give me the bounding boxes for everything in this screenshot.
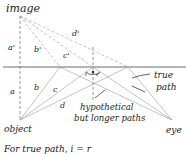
label-object: object <box>4 124 32 134</box>
label-path: path <box>156 82 177 92</box>
label-eye: eye <box>166 125 182 135</box>
true-path-arrow <box>132 74 150 78</box>
label-hypothetical: hypothetical <box>80 102 134 112</box>
label-c: c <box>53 85 58 94</box>
reflection-point <box>92 71 94 73</box>
ray-b-prime <box>20 16 60 67</box>
label-c-prime: c' <box>63 51 70 60</box>
label-b: b <box>34 83 39 92</box>
hypothetical-arrow-2 <box>132 86 145 92</box>
label-a: a <box>10 87 15 96</box>
ray-d-prime <box>20 16 128 67</box>
reflection-diagram: image object eye a' b' c' d' a b c d i r… <box>0 0 186 156</box>
hypothetical-arrow-1 <box>95 90 105 98</box>
label-true: true <box>154 70 173 80</box>
label-i: i <box>85 70 87 77</box>
label-b-prime: b' <box>34 45 41 54</box>
label-a-prime: a' <box>8 43 15 52</box>
label-d-prime: d' <box>72 29 79 38</box>
label-longer-paths: but longer paths <box>74 113 146 123</box>
label-image: image <box>6 2 41 15</box>
label-d: d <box>60 101 65 110</box>
caption: For true path, i = r <box>3 144 92 154</box>
ray-c-prime <box>20 16 93 67</box>
